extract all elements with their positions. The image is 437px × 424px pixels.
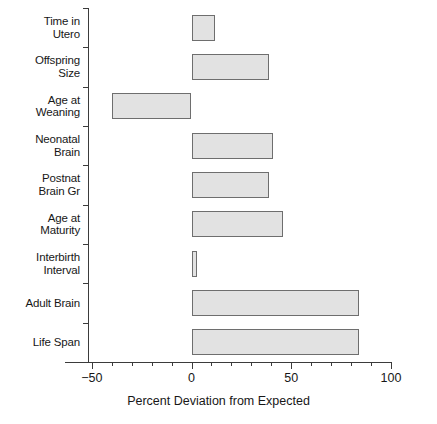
- chart-row: Neonatal Brain: [0, 126, 437, 165]
- bar-4[interactable]: [192, 133, 274, 159]
- x-axis-minor-tick: [271, 362, 272, 366]
- x-axis-minor-tick: [251, 362, 252, 366]
- x-axis-minor-tick: [132, 362, 133, 366]
- chart-row: Offspring Size: [0, 47, 437, 86]
- y-axis-tick: [83, 165, 89, 166]
- chart-row: Age at Weaning: [0, 87, 437, 126]
- x-axis-title: Percent Deviation from Expected: [0, 394, 437, 408]
- chart-row: Life Span: [0, 323, 437, 362]
- chart-row: Postnat Brain Gr: [0, 165, 437, 204]
- x-axis-minor-tick: [172, 362, 173, 366]
- x-axis-minor-tick: [112, 362, 113, 366]
- x-axis-major-tick: [192, 362, 193, 369]
- bar-9[interactable]: [192, 329, 360, 355]
- x-axis-tick-label: 0: [162, 371, 222, 385]
- x-axis-tick-label: 50: [261, 371, 321, 385]
- chart-row: Time in Utero: [0, 8, 437, 47]
- category-label-6: Age at Maturity: [0, 212, 80, 238]
- x-axis-major-tick: [92, 362, 93, 369]
- bar-1[interactable]: [192, 15, 216, 41]
- y-axis-tick: [83, 126, 89, 127]
- y-axis-tick: [83, 87, 89, 88]
- y-axis-tick: [83, 283, 89, 284]
- category-label-1: Time in Utero: [0, 15, 80, 41]
- category-label-5: Postnat Brain Gr: [0, 172, 80, 198]
- bar-2[interactable]: [192, 54, 270, 80]
- bar-7[interactable]: [192, 251, 198, 277]
- bar-5[interactable]: [192, 172, 270, 198]
- x-axis-line: [65, 362, 392, 363]
- chart-rows: Time in UteroOffspring SizeAge at Weanin…: [0, 8, 437, 362]
- bar-chart: Time in UteroOffspring SizeAge at Weanin…: [0, 0, 437, 424]
- x-axis-tick-label: −50: [62, 371, 122, 385]
- y-axis-tick: [83, 8, 89, 9]
- x-axis-minor-tick: [211, 362, 212, 366]
- y-axis-tick: [83, 205, 89, 206]
- x-axis-major-tick: [291, 362, 292, 369]
- x-axis-tick-label: 100: [361, 371, 421, 385]
- x-axis-minor-tick: [152, 362, 153, 366]
- category-label-9: Life Span: [0, 336, 80, 349]
- x-axis-minor-tick: [371, 362, 372, 366]
- category-label-7: Interbirth Interval: [0, 251, 80, 277]
- y-axis-tick: [83, 323, 89, 324]
- y-axis-tick: [83, 362, 89, 363]
- bar-8[interactable]: [192, 290, 360, 316]
- x-axis-minor-tick: [331, 362, 332, 366]
- bar-6[interactable]: [192, 211, 284, 237]
- chart-row: Age at Maturity: [0, 205, 437, 244]
- category-label-2: Offspring Size: [0, 54, 80, 80]
- chart-row: Interbirth Interval: [0, 244, 437, 283]
- bar-3[interactable]: [112, 93, 192, 119]
- x-axis-minor-tick: [231, 362, 232, 366]
- x-axis-minor-tick: [351, 362, 352, 366]
- y-axis-tick: [83, 244, 89, 245]
- category-label-8: Adult Brain: [0, 297, 80, 310]
- y-axis-tick: [83, 47, 89, 48]
- category-label-4: Neonatal Brain: [0, 133, 80, 159]
- category-label-3: Age at Weaning: [0, 94, 80, 120]
- x-axis-minor-tick: [311, 362, 312, 366]
- x-axis-major-tick: [391, 362, 392, 369]
- chart-row: Adult Brain: [0, 283, 437, 322]
